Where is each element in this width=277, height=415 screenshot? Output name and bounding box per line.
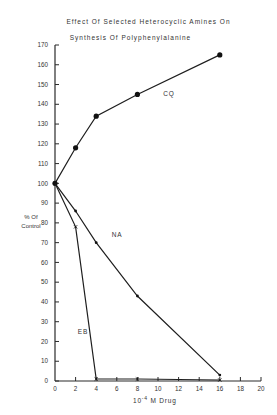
data-point-marker bbox=[74, 210, 77, 213]
x-tick-label: 12 bbox=[175, 385, 183, 392]
x-tick-label: 0 bbox=[53, 385, 57, 392]
data-point-marker bbox=[217, 52, 222, 57]
y-tick-label: 150 bbox=[37, 81, 48, 88]
x-tick-label: 20 bbox=[257, 385, 265, 392]
y-tick-label: 160 bbox=[37, 61, 48, 68]
axes: 0102030405060708090100110120130140150160… bbox=[37, 41, 265, 392]
y-tick-label: 40 bbox=[41, 298, 49, 305]
y-tick-label: 120 bbox=[37, 140, 48, 147]
series-label: NA bbox=[112, 231, 123, 238]
y-tick-label: 140 bbox=[37, 100, 48, 107]
y-tick-label: 100 bbox=[37, 180, 48, 187]
line-chart: 0102030405060708090100110120130140150160… bbox=[0, 0, 277, 415]
data-point-marker bbox=[95, 241, 98, 244]
y-tick-label: 60 bbox=[41, 259, 49, 266]
data-point-marker bbox=[135, 92, 140, 97]
x-tick-label: 6 bbox=[115, 385, 119, 392]
series-line-na bbox=[55, 183, 220, 375]
data-point-marker bbox=[218, 374, 221, 377]
y-tick-label: 0 bbox=[44, 377, 48, 384]
x-tick-label: 8 bbox=[136, 385, 140, 392]
x-tick-label: 16 bbox=[216, 385, 224, 392]
y-tick-label: 10 bbox=[41, 357, 49, 364]
y-tick-label: 170 bbox=[37, 41, 48, 48]
x-axis-label: 10-4 M Drug bbox=[133, 395, 177, 405]
series-label: CQ bbox=[163, 90, 175, 98]
y-tick-label: 80 bbox=[41, 219, 49, 226]
x-tick-label: 10 bbox=[154, 385, 162, 392]
data-point-marker bbox=[94, 114, 99, 119]
y-tick-label: 30 bbox=[41, 318, 49, 325]
x-tick-label: 2 bbox=[74, 385, 78, 392]
y-tick-label: 110 bbox=[38, 160, 49, 167]
y-tick-label: 50 bbox=[41, 278, 49, 285]
series-line-cq bbox=[55, 55, 220, 183]
y-tick-label: 70 bbox=[41, 239, 49, 246]
data-point-marker bbox=[73, 145, 78, 150]
x-tick-label: 14 bbox=[196, 385, 204, 392]
y-tick-label: 90 bbox=[41, 199, 49, 206]
annotations: CQNAEB bbox=[78, 90, 175, 334]
data-point-marker bbox=[136, 295, 139, 298]
series-label: EB bbox=[78, 328, 89, 335]
series-line-eb bbox=[55, 183, 220, 380]
x-tick-label: 18 bbox=[237, 385, 245, 392]
x-tick-label: 4 bbox=[94, 385, 98, 392]
y-tick-label: 130 bbox=[37, 120, 48, 127]
y-tick-label: 20 bbox=[41, 338, 49, 345]
